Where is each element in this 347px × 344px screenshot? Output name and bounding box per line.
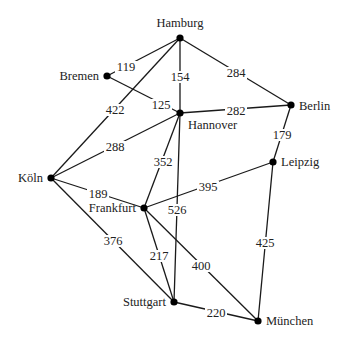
node-stuttgart	[170, 298, 177, 305]
edge-weight-label: 352	[154, 155, 173, 169]
city-label-berlin: Berlin	[299, 99, 331, 113]
edge-weight-label: 284	[227, 66, 247, 80]
city-label-frankfurt: Frankfurt	[89, 201, 137, 215]
city-label-muenchen: München	[266, 314, 314, 328]
edge-weight-label: 119	[117, 60, 135, 74]
node-hamburg	[176, 34, 183, 41]
node-leipzig	[269, 158, 276, 165]
city-label-leipzig: Leipzig	[281, 155, 320, 169]
edge-weight-label: 526	[168, 203, 187, 217]
edge-weight-label: 288	[106, 140, 125, 154]
edge-weight-label: 422	[106, 103, 125, 117]
city-label-stuttgart: Stuttgart	[123, 295, 167, 309]
node-frankfurt	[140, 204, 147, 211]
edge-weight-label: 425	[256, 236, 275, 250]
city-label-koeln: Köln	[18, 171, 44, 185]
edge-weight-label: 154	[171, 70, 191, 84]
edge-weight-label: 217	[150, 249, 169, 263]
edge-weight-label: 376	[104, 234, 123, 248]
edge-weight-label: 220	[207, 306, 226, 320]
city-label-hannover: Hannover	[188, 118, 238, 132]
node-hannover	[176, 109, 183, 116]
edge-weight-label: 125	[152, 98, 171, 112]
edge-weight-label: 395	[199, 180, 218, 194]
node-muenchen	[254, 317, 261, 324]
city-label-bremen: Bremen	[59, 69, 99, 83]
road-distance-graph: 1194221542841252822883525261793954251893…	[0, 0, 347, 344]
node-berlin	[287, 101, 294, 108]
edge-weight-label: 189	[89, 187, 108, 201]
edge-weight-label: 400	[192, 259, 211, 273]
node-bremen	[103, 72, 110, 79]
edge-weight-label: 179	[273, 128, 292, 142]
city-label-hamburg: Hamburg	[157, 16, 205, 30]
edge-weight-label: 282	[227, 104, 246, 118]
node-koeln	[47, 174, 54, 181]
